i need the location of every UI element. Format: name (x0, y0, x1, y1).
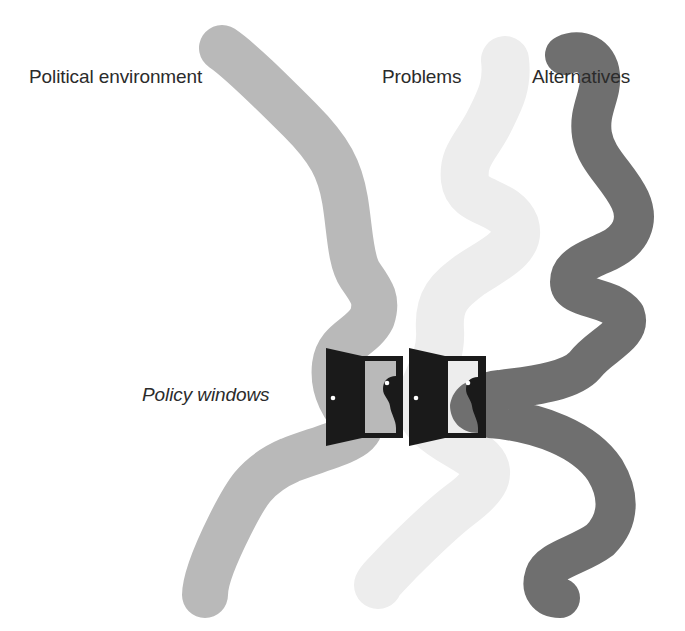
door-knob-icon (414, 396, 419, 401)
alternatives-label: Alternatives (532, 66, 630, 88)
door-knob-icon (331, 396, 336, 401)
policy-window-right (409, 348, 486, 446)
policy-streams-diagram: Political environment Problems Alternati… (0, 0, 685, 631)
problems-stream (378, 60, 516, 585)
policy-windows-label: Policy windows (142, 384, 269, 406)
figure-eye-icon (385, 381, 390, 386)
streams-illustration (0, 0, 685, 631)
political-stream (205, 48, 374, 595)
figure-eye-icon (466, 381, 471, 386)
problems-label: Problems (382, 66, 461, 88)
political-environment-label: Political environment (29, 66, 202, 88)
policy-window-left (326, 348, 403, 446)
